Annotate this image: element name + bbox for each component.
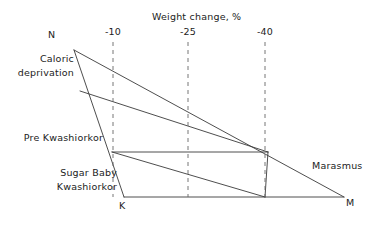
nutrition-classification-diagram: Weight change, % -10 -25 -40 N K M Calor… — [0, 0, 378, 227]
label-sugar-baby-line2: Kwashiorkor — [0, 180, 117, 193]
line-sugar-baby-edge — [112, 152, 265, 197]
line-caloric-band — [80, 91, 268, 152]
vertex-label-m: M — [346, 197, 354, 208]
vertex-label-k: K — [119, 200, 125, 211]
label-pre-kwashiorkor: Pre Kwashiorkor — [0, 132, 103, 143]
label-sugar-baby-line1: Sugar Baby — [0, 166, 117, 179]
chart-title: Weight change, % — [152, 11, 241, 22]
label-caloric-deprivation-line1: Caloric — [0, 52, 74, 65]
tick-label-minus-10: -10 — [93, 26, 133, 37]
label-marasmus: Marasmus — [312, 160, 363, 171]
label-caloric-deprivation-line2: deprivation — [0, 66, 74, 79]
line-convergence-to-baseline — [265, 152, 268, 197]
tick-label-minus-25: -25 — [168, 26, 208, 37]
tick-label-minus-40: -40 — [245, 26, 285, 37]
vertex-label-n: N — [48, 29, 55, 40]
